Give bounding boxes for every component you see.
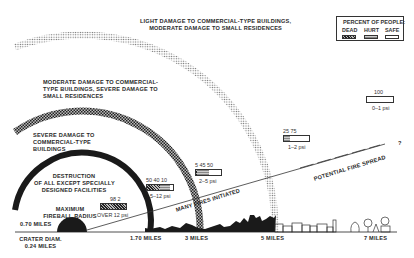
distance-1-70-miles: 1.70 MILES — [130, 235, 162, 242]
zone-label-light-damage: LIGHT DAMAGE TO COMMERCIAL-TYPE BUILDING… — [140, 18, 291, 32]
zone-label-destruction: DESTRUCTION OF ALL EXCEPT SPECIALLY DESI… — [34, 173, 114, 194]
fire-spread-question-mark: ? — [398, 140, 402, 147]
legend-dead-swatch — [342, 35, 356, 39]
crater-label: CRATER DIAM. 0.24 MILES — [18, 236, 63, 250]
legend-safe-swatch — [385, 35, 399, 39]
fireball-label: MAXIMUM FIREBALL RADIUS — [40, 206, 100, 220]
legend-hurt-swatch — [364, 35, 378, 39]
zone-label-severe-damage: SEVERE DAMAGE TO COMMERCIAL-TYPE BUILDIN… — [33, 132, 95, 153]
zone-label-moderate-damage: MODERATE DAMAGE TO COMMERCIAL- TYPE BUIL… — [43, 79, 158, 100]
destroyed-city-silhouette — [145, 215, 276, 232]
fireball-radius-value: 0.70 MILES — [20, 221, 52, 228]
intact-buildings — [275, 217, 390, 232]
distance-7-miles: 7 MILES — [364, 235, 387, 242]
distance-3-miles: 3 MILES — [185, 235, 208, 242]
distance-5-miles: 5 MILES — [261, 235, 284, 242]
legend-percent-of-people: PERCENT OF PEOPLE: DEAD HURT SAFE — [336, 16, 404, 41]
blast-effects-diagram: LIGHT DAMAGE TO COMMERCIAL-TYPE BUILDING… — [0, 0, 414, 258]
